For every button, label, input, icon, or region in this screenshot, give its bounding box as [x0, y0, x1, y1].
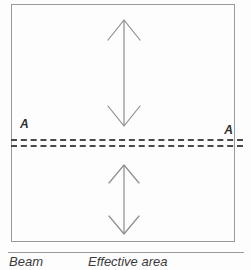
double-headed-arrow-icon: [103, 18, 145, 128]
caption-effective-area-label: Effective area: [88, 254, 168, 270]
figure-canvas: A A Beam Effective area: [0, 0, 251, 270]
caption-row: Beam Effective area: [0, 254, 251, 270]
double-headed-arrow-icon: [103, 163, 145, 236]
section-label-right: A: [224, 124, 233, 136]
effective-area-extent-lower-arrow: [103, 163, 145, 236]
section-label-left: A: [20, 118, 29, 130]
section-line-a-a-upper: [11, 139, 243, 141]
effective-area-extent-upper-arrow: [103, 18, 145, 128]
section-line-a-a-lower: [11, 145, 243, 147]
caption-divider: [8, 252, 244, 253]
caption-beam-label: Beam: [9, 254, 43, 270]
